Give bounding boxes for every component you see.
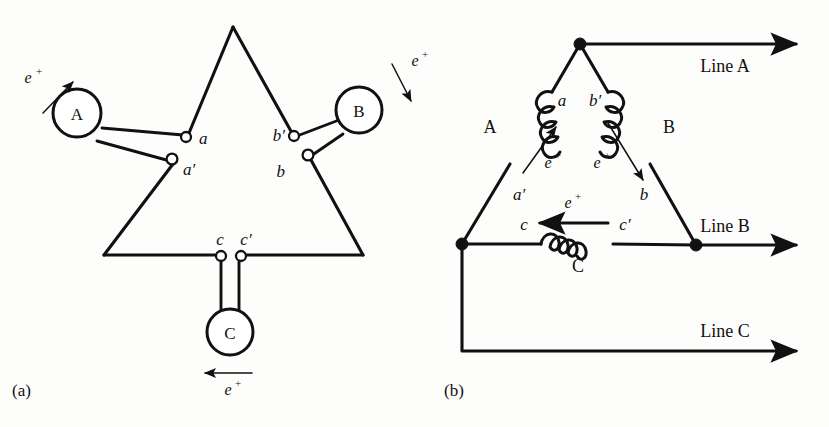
panel-a-emf-arrow-c: e + bbox=[205, 373, 252, 398]
terminal-a-label: a bbox=[199, 129, 208, 148]
emf-arrow-b-shaft bbox=[392, 64, 411, 101]
winding-a-label: A bbox=[484, 117, 497, 137]
winding-b-label: B bbox=[663, 117, 675, 137]
emf-arrow-c-superscript: + bbox=[235, 377, 241, 389]
winding-a-side bbox=[462, 44, 580, 244]
emf-arrow-b-label: e bbox=[411, 52, 418, 69]
coil-b-label: B bbox=[353, 102, 364, 121]
line-c-label: Line C bbox=[700, 321, 750, 341]
coil-a-lead-to-a-prime bbox=[97, 141, 170, 161]
panel-b-terminal-b-prime-label: b′ bbox=[589, 91, 602, 110]
coil-b-group: B bbox=[297, 87, 382, 158]
terminal-a-prime-label: a′ bbox=[183, 160, 196, 179]
coil-a-lead-to-a bbox=[102, 128, 183, 135]
winding-c-label: C bbox=[572, 256, 584, 276]
terminal-c-dot bbox=[216, 251, 226, 261]
terminal-b-label: b bbox=[277, 162, 286, 181]
terminal-c-label: c bbox=[216, 230, 224, 249]
terminal-b-dot bbox=[303, 150, 314, 161]
emf-arrow-c-label: e bbox=[224, 381, 231, 398]
panel-b-emf-arrow-a-superscript: + bbox=[555, 149, 561, 161]
panel-b-emf-arrow-b-label: e bbox=[593, 154, 600, 171]
figure-root: A B C a a bbox=[0, 0, 829, 427]
winding-b-side bbox=[580, 44, 696, 245]
figure-svg: A B C a a bbox=[0, 0, 829, 427]
line-a-label: Line A bbox=[700, 56, 750, 76]
emf-arrow-a-label: e bbox=[24, 69, 31, 86]
terminal-b-prime-dot bbox=[289, 131, 299, 141]
winding-b-lower-lead bbox=[650, 164, 696, 245]
delta-side-b-prime-segment bbox=[233, 27, 292, 133]
panel-b-terminal-a-prime-label: a′ bbox=[513, 185, 526, 204]
panel-b-emf-arrow-c: e + bbox=[540, 190, 608, 223]
coil-c-group: C bbox=[207, 262, 253, 355]
coil-a-label: A bbox=[71, 105, 84, 124]
delta-side-b-segment bbox=[311, 160, 363, 255]
junction-dot-bottom-left bbox=[456, 238, 468, 250]
winding-a-lower-lead bbox=[462, 164, 510, 244]
panel-b-emf-arrow-a-label: e bbox=[544, 154, 551, 171]
panel-b-emf-arrow-c-superscript: + bbox=[575, 190, 581, 202]
junction-dot-bottom-right bbox=[690, 239, 702, 251]
panel-b-terminal-c-label: c bbox=[520, 215, 528, 234]
delta-side-a-prime-segment bbox=[104, 160, 176, 255]
panel-b-terminal-b-label: b bbox=[640, 185, 649, 204]
junction-dot-apex bbox=[574, 38, 586, 50]
coil-c-label: C bbox=[224, 324, 235, 343]
panel-a-caption: (a) bbox=[12, 381, 31, 400]
winding-c-right-lead bbox=[613, 244, 696, 245]
coil-a-group: A bbox=[53, 89, 183, 161]
terminal-c-prime-label: c′ bbox=[240, 230, 252, 249]
winding-b-upper-lead bbox=[580, 44, 608, 92]
panel-b-emf-arrow-b-superscript: + bbox=[604, 149, 610, 161]
emf-arrow-b-superscript: + bbox=[422, 48, 428, 60]
terminal-a-dot bbox=[181, 132, 191, 142]
winding-b-coil bbox=[600, 91, 624, 157]
line-b-label: Line B bbox=[700, 216, 750, 236]
panel-b-terminal-c-prime-label: c′ bbox=[619, 215, 631, 234]
panel-b: A B C a a′ b b′ c c′ e + e + bbox=[444, 38, 796, 400]
panel-b-emf-arrow-b-shaft bbox=[608, 123, 643, 180]
coil-b-lead-to-b-prime bbox=[297, 120, 339, 136]
delta-side-a-segment bbox=[189, 27, 233, 133]
panel-b-terminal-a-label: a bbox=[558, 91, 567, 110]
panel-a-emf-arrow-b: e + bbox=[392, 48, 428, 101]
terminal-a-prime-dot bbox=[167, 154, 178, 165]
panel-a: A B C a a bbox=[12, 27, 428, 400]
winding-a-coil bbox=[536, 91, 560, 157]
panel-a-delta-outline bbox=[104, 27, 363, 255]
panel-b-emf-arrow-c-label: e bbox=[564, 194, 571, 211]
terminal-b-prime-label: b′ bbox=[273, 126, 286, 145]
emf-arrow-a-superscript: + bbox=[36, 65, 42, 77]
winding-a-upper-lead bbox=[552, 44, 580, 92]
panel-b-caption: (b) bbox=[444, 381, 464, 400]
terminal-c-prime-dot bbox=[236, 251, 246, 261]
